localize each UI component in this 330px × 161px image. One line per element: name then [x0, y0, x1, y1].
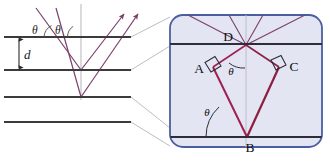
point-label-C: C: [289, 59, 298, 74]
left-theta-label-2: θ: [55, 24, 61, 36]
d-spacing-label: d: [24, 47, 31, 62]
panel-theta-label-bottom: θ: [204, 106, 210, 118]
leader-line-lower-mid: [131, 97, 170, 128]
panel-theta-label-top: θ: [228, 65, 234, 77]
reflected-ray-2: [81, 14, 138, 97]
point-label-B: B: [245, 140, 254, 155]
right-panel: D A C B θ θ: [170, 15, 322, 155]
leader-line-upper-mid: [131, 46, 170, 70]
point-label-D: D: [223, 29, 233, 44]
incident-ray-2: [56, 8, 81, 97]
left-diagram: θ θ d: [4, 4, 138, 122]
point-label-A: A: [194, 61, 204, 76]
reflected-ray-1: [81, 14, 124, 70]
left-theta-label-1: θ: [32, 24, 38, 36]
leader-line-bottom: [131, 122, 170, 146]
figure-canvas: θ θ d: [0, 0, 330, 161]
leader-lines: [131, 17, 170, 146]
incident-angle-arc-2: [68, 26, 74, 37]
bragg-diffraction-figure: θ θ d: [0, 0, 330, 161]
leader-line-top: [131, 17, 170, 37]
